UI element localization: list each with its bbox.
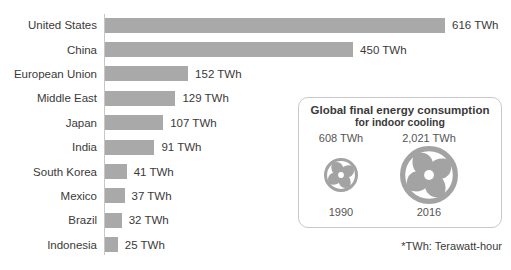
- value-label: 25 TWh: [125, 239, 165, 251]
- bar-row: European Union152 TWh: [0, 62, 511, 86]
- bar: [104, 42, 353, 57]
- fan-row: 608 TWh 1990 2,021 TWh 2016: [299, 132, 501, 218]
- category-label: Mexico: [0, 190, 104, 202]
- year-label: 2016: [417, 206, 441, 218]
- value-label: 450 TWh: [360, 44, 406, 56]
- year-label: 1990: [329, 206, 353, 218]
- value-label: 129 TWh: [182, 92, 228, 104]
- value-label: 37 TWh: [132, 190, 172, 202]
- axis-line: [104, 14, 105, 255]
- inset-item-2016: 2,021 TWh 2016: [377, 132, 481, 218]
- bar: [104, 91, 175, 106]
- category-label: South Korea: [0, 166, 104, 178]
- value-label: 152 TWh: [195, 68, 241, 80]
- value-label: 107 TWh: [170, 117, 216, 129]
- footnote: *TWh: Terawatt-hour: [401, 240, 502, 252]
- bar: [104, 66, 188, 81]
- inset-subtitle: for indoor cooling: [299, 116, 501, 128]
- category-label: Japan: [0, 117, 104, 129]
- value-label: 608 TWh: [319, 132, 363, 144]
- bar: [104, 164, 127, 179]
- category-label: United States: [0, 19, 104, 31]
- value-label: 616 TWh: [452, 19, 498, 31]
- bar: [104, 188, 125, 203]
- energy-consumption-chart: United States616 TWhChina450 TWhEuropean…: [0, 0, 511, 270]
- category-label: Brazil: [0, 214, 104, 226]
- bar: [104, 213, 122, 228]
- bar-row: China450 TWh: [0, 37, 511, 61]
- category-label: Indonesia: [0, 239, 104, 251]
- category-label: Middle East: [0, 92, 104, 104]
- bar: [104, 115, 163, 130]
- value-label: 91 TWh: [161, 141, 201, 153]
- bar: [104, 140, 154, 155]
- inset-card: Global final energy consumption for indo…: [298, 97, 502, 228]
- bar: [104, 18, 445, 33]
- fan-icon: [400, 146, 458, 204]
- inset-title: Global final energy consumption: [299, 104, 501, 116]
- category-label: European Union: [0, 68, 104, 80]
- bar: [104, 237, 118, 252]
- value-label: 2,021 TWh: [402, 132, 456, 144]
- value-label: 41 TWh: [134, 166, 174, 178]
- category-label: China: [0, 44, 104, 56]
- bar-row: United States616 TWh: [0, 13, 511, 37]
- inset-item-1990: 608 TWh 1990: [305, 132, 377, 218]
- fan-icon: [324, 158, 358, 192]
- value-label: 32 TWh: [129, 214, 169, 226]
- category-label: India: [0, 141, 104, 153]
